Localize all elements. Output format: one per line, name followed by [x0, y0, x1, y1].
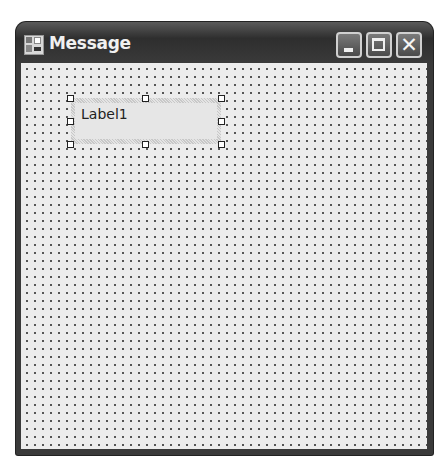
form-design-surface[interactable]: Label1	[21, 63, 427, 449]
resize-handle-bottom-right[interactable]	[218, 141, 225, 148]
resize-handle-top[interactable]	[142, 95, 149, 102]
form-window: Message ✕ Label1	[16, 22, 433, 455]
maximize-button[interactable]	[366, 32, 392, 58]
close-button[interactable]: ✕	[396, 32, 422, 58]
resize-handle-left[interactable]	[67, 118, 74, 125]
resize-handle-bottom-left[interactable]	[67, 141, 74, 148]
window-title: Message	[49, 33, 131, 53]
label-text: Label1	[81, 106, 128, 122]
maximize-icon	[372, 38, 385, 51]
resize-handle-top-right[interactable]	[218, 95, 225, 102]
minimize-icon	[344, 48, 353, 52]
close-icon: ✕	[398, 32, 420, 58]
title-bar[interactable]: Message ✕	[16, 22, 433, 63]
resize-handle-top-left[interactable]	[67, 95, 74, 102]
form-icon[interactable]	[24, 35, 44, 55]
minimize-button[interactable]	[336, 32, 362, 58]
resize-handle-right[interactable]	[218, 118, 225, 125]
label-control[interactable]: Label1	[71, 98, 221, 144]
resize-handle-bottom[interactable]	[142, 141, 149, 148]
